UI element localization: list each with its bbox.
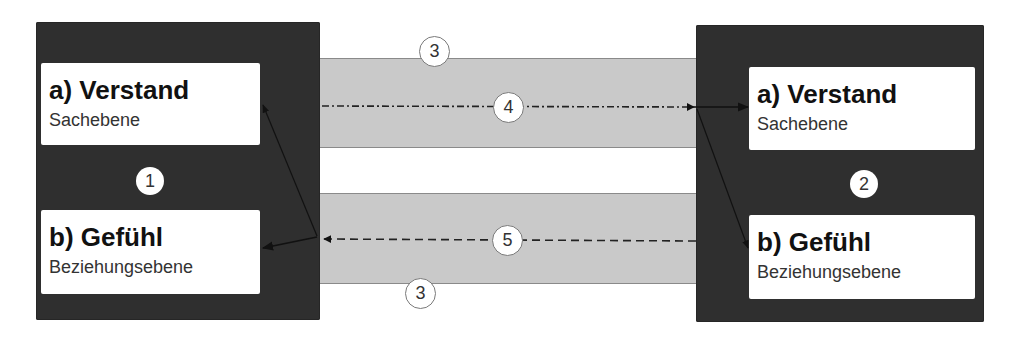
channel-top-badge: 3 bbox=[419, 36, 450, 67]
sender-gefuehl-card: b) Gefühl Beziehungsebene bbox=[41, 210, 260, 294]
flow-5-badge: 5 bbox=[492, 225, 523, 256]
receiver-badge: 2 bbox=[850, 170, 878, 198]
sender-verstand-subtitle: Sachebene bbox=[49, 110, 140, 131]
receiver-verstand-subtitle: Sachebene bbox=[757, 114, 848, 135]
sender-panel: a) Verstand Sachebene b) Gefühl Beziehun… bbox=[36, 22, 320, 320]
receiver-verstand-card: a) Verstand Sachebene bbox=[749, 67, 975, 150]
receiver-gefuehl-subtitle: Beziehungsebene bbox=[757, 262, 901, 283]
receiver-verstand-title: a) Verstand bbox=[757, 79, 897, 110]
sender-badge: 1 bbox=[136, 167, 164, 195]
receiver-panel: a) Verstand Sachebene b) Gefühl Beziehun… bbox=[696, 25, 984, 322]
channel-bottom-badge: 3 bbox=[405, 278, 436, 309]
communication-diagram: a) Verstand Sachebene b) Gefühl Beziehun… bbox=[0, 0, 1009, 338]
receiver-gefuehl-title: b) Gefühl bbox=[757, 227, 871, 258]
flow-4-badge: 4 bbox=[493, 92, 524, 123]
sender-verstand-card: a) Verstand Sachebene bbox=[41, 63, 260, 145]
sender-gefuehl-subtitle: Beziehungsebene bbox=[49, 257, 193, 278]
sender-gefuehl-title: b) Gefühl bbox=[49, 222, 163, 253]
sender-verstand-title: a) Verstand bbox=[49, 75, 189, 106]
receiver-gefuehl-card: b) Gefühl Beziehungsebene bbox=[749, 215, 975, 299]
